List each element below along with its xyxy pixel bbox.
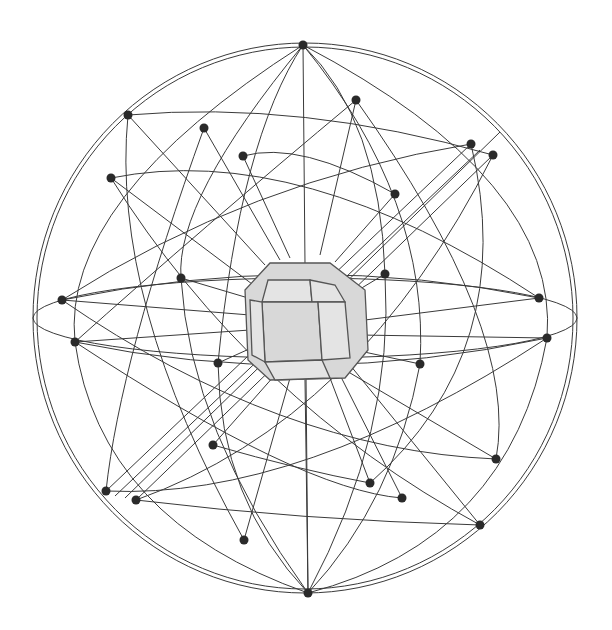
pole [489, 151, 498, 160]
pole [124, 111, 133, 120]
sphere-projection-diagram [0, 0, 612, 630]
pole [58, 296, 67, 305]
crystal-face-bottom [265, 360, 330, 380]
pole [102, 487, 111, 496]
crystal-face-top [262, 280, 312, 302]
pole [416, 360, 425, 369]
pole [543, 334, 552, 343]
pole [391, 190, 400, 199]
pole [214, 359, 223, 368]
pole [476, 521, 485, 530]
pole [366, 479, 375, 488]
great-circle [136, 500, 480, 525]
pole [492, 455, 501, 464]
great-circle [128, 112, 493, 155]
crystal-face-right [318, 302, 350, 360]
pole [132, 496, 141, 505]
pole [398, 494, 407, 503]
pole [304, 589, 313, 598]
pole [352, 96, 361, 105]
crystal [245, 263, 368, 380]
pole [381, 270, 390, 279]
pole [239, 152, 248, 161]
diagram-stage: Crystal with octagonal-section faces at … [0, 0, 612, 630]
pole [299, 41, 308, 50]
pole [467, 140, 476, 149]
pole [535, 294, 544, 303]
pole [107, 174, 116, 183]
great-circle [370, 144, 483, 483]
pole [240, 536, 249, 545]
pole [71, 338, 80, 347]
pole [209, 441, 218, 450]
pole [177, 274, 186, 283]
crystal-face-front [262, 302, 322, 362]
crystal-face-left [250, 300, 265, 362]
great-circle [126, 115, 244, 540]
pole [200, 124, 209, 133]
